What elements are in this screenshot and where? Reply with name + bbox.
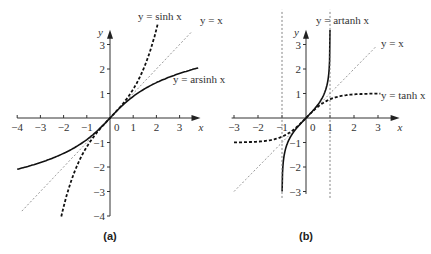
y-axis-arrow-icon [303, 30, 309, 39]
y-tick-label: 3 [296, 39, 302, 51]
y-tick-label: 2 [296, 63, 302, 75]
curve-label: y = x [381, 37, 404, 49]
y-axis-label: y [293, 26, 299, 38]
panel-label: (b) [299, 230, 313, 242]
y-tick-label: −2 [289, 161, 301, 173]
panel-a: −4−3−2−1123321−1−2−3−40xyy = sinh xy = x… [11, 10, 225, 242]
curve-label: y = x [200, 14, 223, 26]
curve-label: y = tanh x [381, 89, 426, 101]
x-tick-label: −1 [81, 121, 93, 133]
origin-label: 0 [114, 121, 120, 133]
y-axis-label: y [97, 26, 103, 38]
x-tick-label: 3 [375, 121, 381, 133]
x-tick-label: −2 [58, 121, 70, 133]
x-tick-label: −4 [11, 121, 23, 133]
x-axis-label: x [397, 121, 403, 133]
figure: −4−3−2−1123321−1−2−3−40xyy = sinh xy = x… [0, 0, 431, 254]
panel-label: (a) [103, 230, 117, 242]
x-tick-label: 3 [177, 121, 183, 133]
y-tick-label: −4 [93, 210, 105, 222]
x-tick-label: −1 [276, 121, 288, 133]
y-tick-label: −1 [93, 137, 105, 149]
x-tick-label: −3 [35, 121, 47, 133]
y-tick-label: −1 [289, 137, 301, 149]
curve-label: y = arsinh x [173, 73, 226, 85]
x-tick-label: 1 [130, 121, 136, 133]
y-tick-label: −3 [93, 186, 105, 198]
y-tick-label: 1 [100, 88, 106, 100]
x-tick-label: 2 [351, 121, 357, 133]
panel-b: −3−2−1123321−1−2−30xyy = artanh xy = xy … [228, 10, 426, 242]
origin-label: 0 [310, 121, 316, 133]
curve-label: y = sinh x [138, 10, 182, 22]
x-tick-label: 2 [154, 121, 160, 133]
y-tick-label: −3 [289, 186, 301, 198]
y-tick-label: 2 [100, 63, 106, 75]
x-tick-label: 1 [327, 121, 333, 133]
curve-label: y = artanh x [316, 14, 369, 26]
x-tick-label: −2 [252, 121, 264, 133]
y-tick-label: 1 [296, 88, 302, 100]
sinh-curve [61, 24, 157, 216]
y-tick-label: −2 [93, 161, 105, 173]
y-tick-label: 3 [100, 39, 106, 51]
y-axis-arrow-icon [107, 30, 113, 39]
arsinh-curve [17, 68, 198, 169]
x-axis-label: x [197, 121, 203, 133]
x-tick-label: −3 [228, 121, 240, 133]
